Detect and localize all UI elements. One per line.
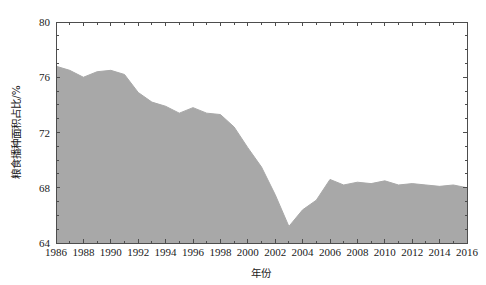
- x-tick-label: 1992: [127, 246, 149, 258]
- grain-sown-area-share-area-chart: 1986198819901992199419961998200020022004…: [0, 0, 486, 285]
- y-tick-label: 76: [39, 71, 51, 83]
- x-tick-label: 2010: [374, 246, 397, 258]
- x-tick-label: 1996: [182, 246, 205, 258]
- x-tick-label: 1988: [72, 246, 95, 258]
- y-axis-title: 粮食播种面积占比/%: [10, 85, 22, 179]
- x-tick-label: 2000: [237, 246, 260, 258]
- x-axis-title: 年份: [251, 267, 272, 279]
- x-tick-label: 2012: [401, 246, 423, 258]
- x-tick-label: 2006: [319, 246, 342, 258]
- x-axis-tick-labels: 1986198819901992199419961998200020022004…: [45, 246, 479, 258]
- y-tick-label: 68: [39, 182, 51, 194]
- y-tick-label: 72: [39, 127, 50, 139]
- x-tick-label: 1994: [155, 246, 178, 258]
- x-tick-label: 1990: [100, 246, 123, 258]
- y-tick-label: 64: [39, 237, 51, 249]
- x-tick-label: 2004: [292, 246, 315, 258]
- x-tick-label: 2002: [264, 246, 286, 258]
- x-tick-label: 2008: [346, 246, 369, 258]
- y-tick-label: 80: [39, 16, 51, 28]
- x-tick-label: 2016: [456, 246, 479, 258]
- chart-figure: 1986198819901992199419961998200020022004…: [0, 0, 486, 285]
- x-tick-label: 2014: [429, 246, 452, 258]
- x-tick-label: 1998: [209, 246, 232, 258]
- y-axis-tick-labels: 6468727680: [39, 16, 51, 249]
